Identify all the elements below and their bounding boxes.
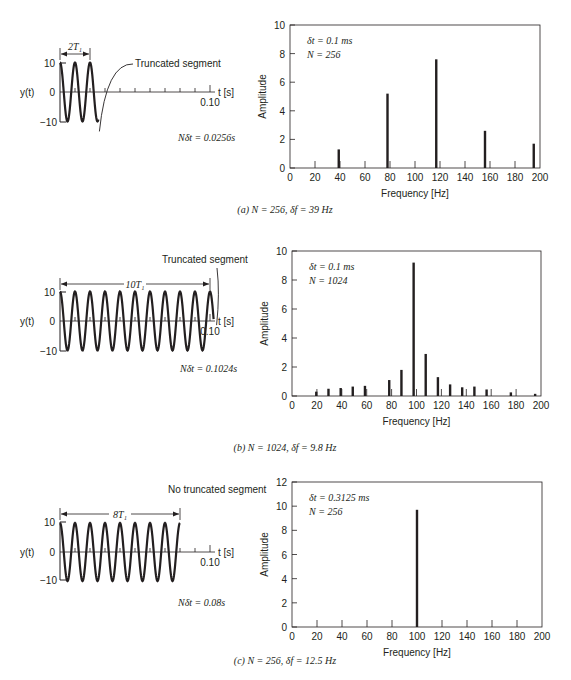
time-ylabel: y(t) <box>20 316 34 327</box>
time-xtick-end: 0.10 <box>200 326 220 337</box>
spectral-line <box>352 387 354 396</box>
annotation-dt: δt = 0.1 ms <box>309 261 354 272</box>
ytick-label: 8 <box>279 49 285 60</box>
annotation-n: N = 256 <box>308 506 342 517</box>
spectral-line <box>364 386 366 396</box>
xtick-label: 80 <box>386 400 398 411</box>
spectral-line <box>339 388 341 396</box>
xtick-label: 180 <box>507 172 524 183</box>
spectrum-chart-c: 024681012020406080100120140160180200Freq… <box>259 477 551 658</box>
ytick-label: 2 <box>281 598 287 609</box>
ytick-neg10: −10 <box>40 575 57 586</box>
xtick-label: 60 <box>361 400 373 411</box>
ytick-label: 10 <box>274 20 286 31</box>
ytick-label: 2 <box>279 134 285 145</box>
panel-caption: (c) N = 256, δf = 12.5 Hz <box>234 655 336 667</box>
spectral-line <box>534 394 536 396</box>
xtick-label: 0 <box>289 631 295 642</box>
plot-frame <box>292 251 541 396</box>
ytick-label: 12 <box>276 477 288 488</box>
ytick-label: 6 <box>279 77 285 88</box>
spectrum-chart-a: 0246810020406080100120140160180200Freque… <box>257 20 549 199</box>
xtick-label: 100 <box>408 400 425 411</box>
annotation-dt: δt = 0.3125 ms <box>309 492 369 503</box>
spectral-line <box>400 370 402 396</box>
spectral-line <box>425 354 427 396</box>
segment-pointer <box>99 64 133 131</box>
spectral-line <box>435 59 437 168</box>
xtick-label: 60 <box>361 631 373 642</box>
ytick-0: 0 <box>49 316 55 327</box>
ytick-neg10: −10 <box>40 346 57 357</box>
xtick-label: 120 <box>433 400 450 411</box>
ytick-10: 10 <box>44 517 56 528</box>
xtick-label: 20 <box>311 631 323 642</box>
segment-note: Truncated segment <box>135 58 221 69</box>
xtick-label: 180 <box>509 631 526 642</box>
xtick-label: 120 <box>434 631 451 642</box>
ytick-label: 8 <box>281 275 287 286</box>
spectral-line <box>449 384 451 396</box>
xtick-label: 40 <box>334 172 346 183</box>
spectral-line <box>485 389 487 396</box>
spectral-line <box>484 131 486 168</box>
ytick-label: 0 <box>281 622 287 633</box>
xtick-label: 80 <box>384 172 396 183</box>
xtick-label: 40 <box>336 400 348 411</box>
time-plot-c: 100−10y(t)t [s]0.108T₁No truncated segme… <box>20 484 267 608</box>
xtick-label: 200 <box>532 172 549 183</box>
time-ylabel: y(t) <box>20 87 34 98</box>
ytick-0: 0 <box>49 547 55 558</box>
ytick-10: 10 <box>44 58 56 69</box>
xtick-label: 140 <box>459 631 476 642</box>
spectrum-chart-b: 0246810020406080100120140160180200Freque… <box>259 246 550 427</box>
xtick-label: 60 <box>359 172 371 183</box>
ytick-label: 6 <box>281 304 287 315</box>
xtick-label: 80 <box>386 631 398 642</box>
x-axis-label: Frequency [Hz] <box>383 416 451 427</box>
xtick-label: 200 <box>533 400 550 411</box>
spectral-line <box>388 380 390 396</box>
period-label: 8T₁ <box>113 509 127 520</box>
panel-caption: (b) N = 1024, δf = 9.8 Hz <box>234 442 337 454</box>
time-ylabel: y(t) <box>20 547 34 558</box>
xtick-label: 160 <box>483 400 500 411</box>
y-axis-label: Amplitude <box>259 532 270 577</box>
record-length: Nδt = 0.1024s <box>179 363 237 374</box>
record-length: Nδt = 0.08s <box>177 597 225 608</box>
spectral-line <box>533 144 535 168</box>
ytick-label: 6 <box>281 550 287 561</box>
xtick-label: 0 <box>287 172 293 183</box>
xtick-label: 40 <box>336 631 348 642</box>
time-xtick-end: 0.10 <box>200 557 220 568</box>
x-axis-label: Frequency [Hz] <box>381 188 449 199</box>
ytick-label: 8 <box>281 525 287 536</box>
ytick-label: 0 <box>279 163 285 174</box>
spectral-line <box>412 263 414 396</box>
xtick-label: 140 <box>457 172 474 183</box>
record-length: Nδt = 0.0256s <box>177 132 235 143</box>
ytick-0: 0 <box>49 87 55 98</box>
y-axis-label: Amplitude <box>257 74 268 119</box>
xtick-label: 200 <box>534 631 551 642</box>
spectral-line <box>510 392 512 396</box>
spectral-line <box>437 377 439 396</box>
ytick-label: 10 <box>276 501 288 512</box>
time-plot-b: 100−10y(t)t [s]0.1010T₁Truncated segment… <box>20 254 248 374</box>
xtick-label: 160 <box>482 172 499 183</box>
segment-note: No truncated segment <box>168 484 267 495</box>
ytick-10: 10 <box>44 287 56 298</box>
annotation-n: N = 256 <box>306 49 340 60</box>
panel-a: 100−10y(t)t [s]0.102T₁Truncated segmentN… <box>20 20 549 216</box>
ytick-label: 4 <box>281 574 287 585</box>
figure-canvas: 100−10y(t)t [s]0.102T₁Truncated segmentN… <box>0 0 571 680</box>
ytick-label: 0 <box>281 391 287 402</box>
xtick-label: 0 <box>289 400 295 411</box>
time-xtick-end: 0.10 <box>200 97 220 108</box>
ytick-neg10: −10 <box>40 117 57 128</box>
panel-c: 100−10y(t)t [s]0.108T₁No truncated segme… <box>20 477 551 667</box>
y-axis-label: Amplitude <box>259 301 270 346</box>
period-label: 2T₁ <box>68 41 82 52</box>
spectral-line <box>386 94 388 168</box>
xtick-label: 100 <box>409 631 426 642</box>
